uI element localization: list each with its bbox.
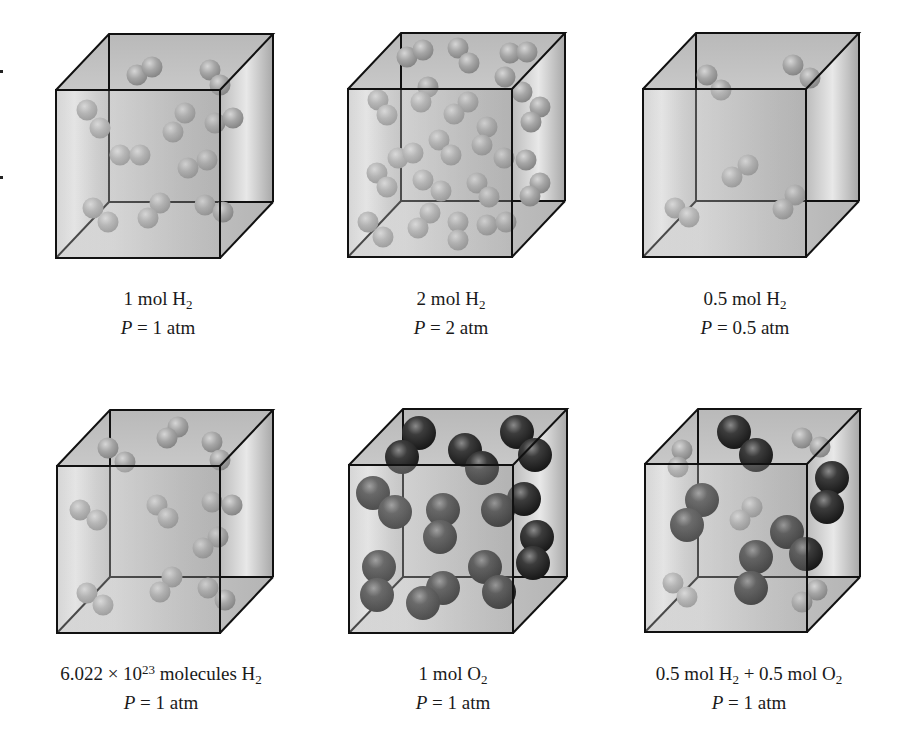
label-panel-2: 2 mol H2 P = 2 atm: [301, 284, 601, 342]
container-cube-2: [348, 33, 565, 257]
container-cube-4: [57, 410, 273, 633]
pressure-text: P = 1 atm: [599, 688, 899, 717]
container-cube-3: [643, 33, 859, 257]
label-panel-4: 6.022 × 1023 molecules H2 P = 1 atm: [11, 659, 311, 717]
amount-text: 6.022 × 1023 molecules H2: [11, 659, 311, 688]
container-cube-5: [349, 409, 567, 633]
pressure-text: P = 2 atm: [301, 313, 601, 342]
label-panel-6: 0.5 mol H2 + 0.5 mol O2 P = 1 atm: [599, 659, 899, 717]
pressure-text: P = 1 atm: [11, 688, 311, 717]
label-panel-3: 0.5 mol H2 P = 0.5 atm: [595, 284, 895, 342]
container-cube-1: [56, 34, 273, 258]
cubes-illustration: [0, 0, 901, 749]
gas-containers-figure: 1 mol H2 P = 1 atm 2 mol H2 P = 2 atm 0.…: [0, 0, 901, 749]
amount-text: 0.5 mol H2 + 0.5 mol O2: [599, 659, 899, 688]
pressure-text: P = 0.5 atm: [595, 313, 895, 342]
pressure-text: P = 1 atm: [303, 688, 603, 717]
stray-mark-2: [0, 176, 3, 179]
pressure-text: P = 1 atm: [8, 313, 308, 342]
amount-text: 2 mol H2: [301, 284, 601, 313]
container-cube-6: [645, 409, 860, 632]
amount-text: 0.5 mol H2: [595, 284, 895, 313]
amount-text: 1 mol O2: [303, 659, 603, 688]
label-panel-5: 1 mol O2 P = 1 atm: [303, 659, 603, 717]
amount-text: 1 mol H2: [8, 284, 308, 313]
stray-mark-1: [0, 70, 3, 73]
label-panel-1: 1 mol H2 P = 1 atm: [8, 284, 308, 342]
